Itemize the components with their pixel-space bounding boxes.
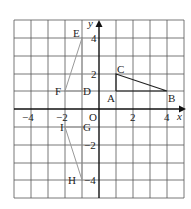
triangle-def (65, 38, 82, 91)
y-tick-neg4: −4 (84, 174, 96, 186)
triangle-ghi (65, 127, 82, 180)
x-tick-2: 2 (130, 111, 136, 123)
coordinate-grid-diagram: y x O −4 −2 2 4 4 2 −2 −4 E F D C A B I … (0, 0, 191, 209)
point-label-a: A (107, 92, 115, 104)
triangle-abc (116, 74, 167, 91)
x-tick-4: 4 (164, 111, 170, 123)
x-tick-neg4: −4 (22, 111, 34, 123)
x-axis-label: x (176, 110, 182, 122)
axes (14, 24, 183, 198)
point-label-h: H (68, 174, 76, 186)
point-label-c: C (117, 63, 124, 75)
y-tick-neg2: −2 (84, 139, 96, 151)
point-label-g: G (83, 121, 91, 133)
y-axis-label: y (87, 17, 93, 29)
point-label-d: D (83, 85, 91, 97)
point-label-i: I (60, 121, 64, 133)
y-tick-4: 4 (91, 32, 97, 44)
y-tick-2: 2 (91, 68, 97, 80)
point-label-e: E (73, 27, 80, 39)
point-label-f: F (55, 85, 61, 97)
y-axis-arrow-icon (96, 20, 103, 27)
point-label-b: B (168, 92, 175, 104)
